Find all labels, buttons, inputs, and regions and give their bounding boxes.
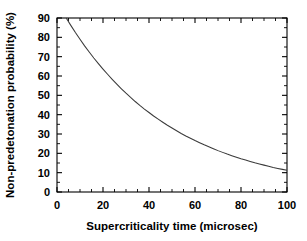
x-tick-label: 40	[143, 199, 155, 211]
x-tick-label: 0	[54, 199, 60, 211]
x-tick-label: 80	[235, 199, 247, 211]
y-tick-label: 60	[38, 70, 50, 82]
x-axis-title: Supercriticality time (microsec)	[86, 220, 257, 232]
x-tick-label: 60	[189, 199, 201, 211]
chart-figure: 020406080100 0102030405060708090 Supercr…	[0, 0, 307, 241]
y-axis-title: Non-predetonation probability (%)	[4, 12, 16, 198]
y-tick-label: 90	[38, 12, 50, 24]
y-tick-label: 30	[38, 128, 50, 140]
y-tick-label: 10	[38, 167, 50, 179]
x-tick-label: 20	[97, 199, 109, 211]
x-tick-label: 100	[278, 199, 296, 211]
y-tick-label: 40	[38, 109, 50, 121]
y-tick-label: 50	[38, 89, 50, 101]
y-tick-label: 20	[38, 147, 50, 159]
y-tick-label: 0	[44, 186, 50, 198]
y-tick-label: 70	[38, 51, 50, 63]
y-tick-label: 80	[38, 31, 50, 43]
